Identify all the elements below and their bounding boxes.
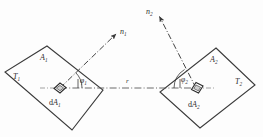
label-dA1: dA1: [49, 98, 61, 108]
normal-vector-n1: [60, 34, 116, 88]
label-n1: n1: [120, 27, 127, 37]
diagram-canvas: A1 T1 dA1 φ1 n1 A2 T2 dA2 φ2 n2: [0, 0, 263, 137]
normal-vector-n2: [160, 17, 197, 89]
label-T2: T2: [235, 77, 242, 87]
label-dA2: dA2: [188, 100, 200, 110]
label-phi1: φ1: [80, 76, 87, 86]
label-n2: n2: [146, 7, 153, 17]
radiation-exchange-diagram: A1 T1 dA1 φ1 n1 A2 T2 dA2 φ2 n2: [0, 0, 263, 137]
differential-element-dA2: [192, 83, 204, 94]
label-A1: A1: [39, 53, 48, 63]
label-T1: T1: [13, 72, 20, 82]
label-phi2: φ2: [181, 75, 188, 85]
label-r: r: [126, 77, 129, 85]
label-A2: A2: [209, 55, 218, 65]
